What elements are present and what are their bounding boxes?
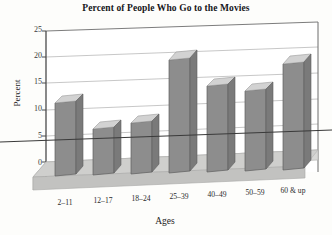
bar-group-2-11 — [55, 94, 83, 176]
chart-title: Percent of People Who Go to the Movies — [0, 3, 332, 13]
y-tick-25: 25 — [20, 25, 42, 34]
y-tick-10: 10 — [20, 104, 42, 113]
bar-group-40-49 — [207, 77, 235, 172]
bar-group-50-59 — [245, 82, 273, 171]
bar-group-25-39 — [169, 50, 197, 173]
bar-group-18-24 — [131, 114, 159, 174]
x-axis-label: Ages — [120, 216, 210, 226]
y-tick-20: 20 — [20, 51, 42, 60]
y-tick-5: 5 — [20, 131, 42, 140]
plot-frame — [42, 22, 318, 178]
y-tick-0: 0 — [20, 158, 42, 167]
bar-group-12-17 — [93, 120, 121, 175]
bar-group-60-and-up — [283, 54, 311, 170]
x-tick-60-and-up: 60 & up — [270, 186, 316, 195]
y-tick-15: 15 — [20, 77, 42, 86]
annotation-line-at-5 — [0, 130, 332, 142]
bar-chart: Percent of People Who Go to the Movies P… — [0, 0, 332, 235]
y-axis-label: Percent — [12, 63, 22, 123]
chart-floor — [33, 150, 318, 190]
